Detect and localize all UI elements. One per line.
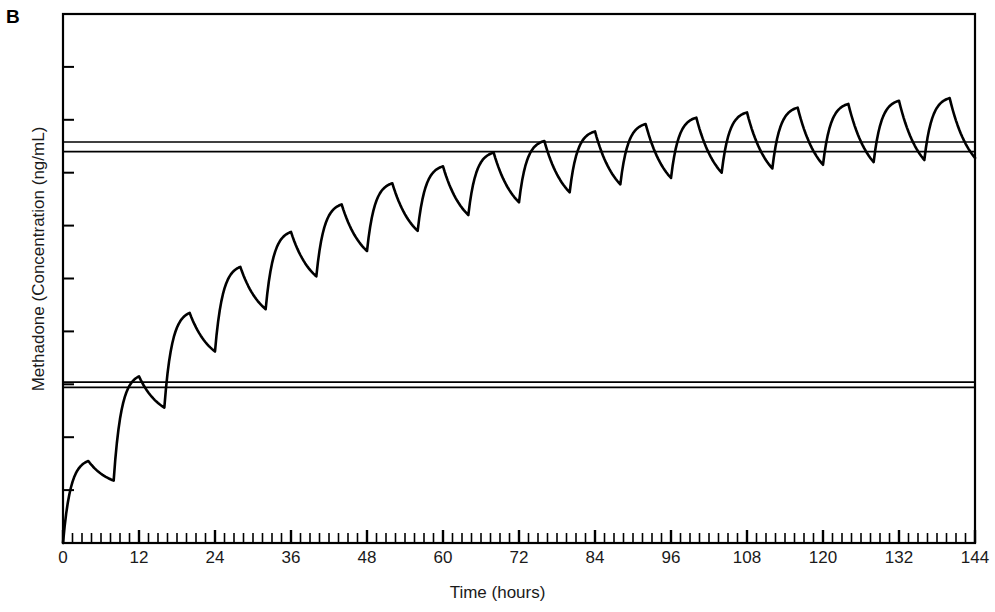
- x-axis-tick-label-120: 120: [809, 548, 837, 568]
- x-axis-tick-labels: 01224364860728496108120132144: [0, 548, 995, 576]
- x-axis-tick-label-60: 60: [434, 548, 453, 568]
- x-axis-tick-label-108: 108: [733, 548, 761, 568]
- x-axis-tick-label-96: 96: [662, 548, 681, 568]
- x-axis-tick-label-144: 144: [961, 548, 989, 568]
- x-axis-tick-label-12: 12: [130, 548, 149, 568]
- chart-plot-area: [0, 0, 995, 612]
- plot-frame: [63, 14, 975, 543]
- x-axis-tick-label-84: 84: [586, 548, 605, 568]
- x-axis-label: Time (hours): [0, 583, 995, 603]
- concentration-curve: [63, 98, 975, 543]
- x-axis-tick-label-132: 132: [885, 548, 913, 568]
- x-axis-tick-label-0: 0: [58, 548, 67, 568]
- x-axis-tick-label-24: 24: [206, 548, 225, 568]
- x-axis-tick-label-36: 36: [282, 548, 301, 568]
- x-axis-tick-label-48: 48: [358, 548, 377, 568]
- figure-panel-b: B Methadone (Concentration (ng/mL) 01224…: [0, 0, 995, 612]
- x-axis-tick-label-72: 72: [510, 548, 529, 568]
